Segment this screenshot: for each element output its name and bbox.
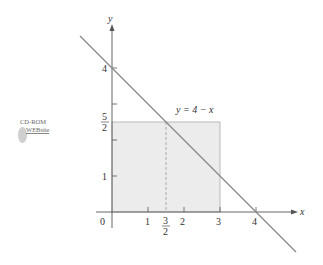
badge-line2: WEBsite bbox=[26, 126, 49, 134]
y-axis-arrow-icon bbox=[110, 24, 115, 31]
x-label-3: 3 bbox=[216, 216, 221, 227]
y-label-5half-den: 2 bbox=[102, 122, 107, 133]
x-axis-arrow-icon bbox=[291, 210, 298, 215]
equation-label: y = 4 − x bbox=[175, 104, 214, 115]
x-label-1: 1 bbox=[145, 216, 150, 227]
y-axis-label: y bbox=[107, 13, 113, 24]
x-label-0: 0 bbox=[100, 216, 105, 227]
y-label-1: 1 bbox=[102, 171, 107, 182]
y-label-5half-num: 5 bbox=[102, 111, 107, 122]
x-label-2: 2 bbox=[180, 216, 185, 227]
y-label-4: 4 bbox=[102, 63, 107, 74]
x-label-3half-num: 3 bbox=[163, 215, 168, 226]
x-label-3half-den: 2 bbox=[163, 226, 168, 237]
cd-rom-website-badge: CD-ROM WEBsite bbox=[18, 118, 58, 148]
x-label-4: 4 bbox=[252, 216, 257, 227]
badge-line1: CD-ROM bbox=[20, 118, 46, 125]
x-axis-label: x bbox=[299, 206, 305, 217]
